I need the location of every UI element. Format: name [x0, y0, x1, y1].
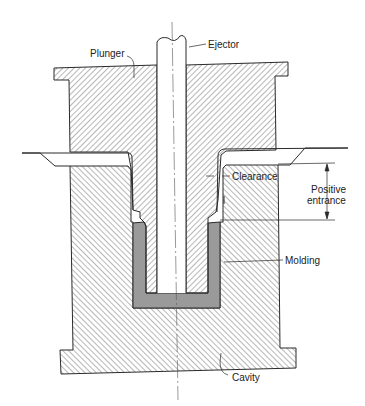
ejector-rod	[157, 36, 186, 294]
positive-entrance-label-line1: Positive	[311, 184, 346, 195]
ejector-break-line	[157, 36, 186, 43]
cavity-label: Cavity	[232, 372, 260, 383]
positive-entrance-label-line2: entrance	[307, 195, 346, 206]
ejector-label: Ejector	[208, 39, 240, 50]
molding-label: Molding	[285, 255, 320, 266]
clearance-label: Clearance	[232, 171, 278, 182]
ejector-leader	[189, 44, 206, 47]
plunger-label: Plunger	[90, 48, 125, 59]
mold-diagram: Ejector Plunger Clearance Positive entra…	[0, 0, 365, 406]
